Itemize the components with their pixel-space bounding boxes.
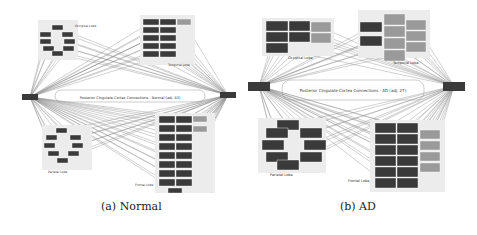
- label-frontal: Frontal Lobe: [135, 183, 154, 187]
- region-node: [406, 42, 426, 52]
- region-node: [43, 46, 54, 51]
- region-node: [160, 43, 176, 49]
- region-node: [266, 128, 288, 138]
- region-node: [64, 39, 75, 44]
- label-occipital: Occipital Lobe: [75, 24, 96, 28]
- hub-right: [443, 82, 465, 91]
- region-node: [384, 50, 405, 61]
- region-node: [176, 170, 192, 177]
- region-node: [300, 152, 322, 162]
- region-node: [159, 170, 175, 177]
- region-node: [262, 140, 284, 150]
- region-node: [397, 178, 418, 188]
- region-node: [143, 19, 159, 25]
- region-node: [193, 116, 207, 122]
- region-node: [176, 143, 192, 150]
- region-node: [300, 128, 322, 138]
- region-node: [176, 134, 192, 141]
- region-node: [375, 156, 396, 166]
- region-node: [420, 152, 440, 161]
- region-node: [311, 33, 331, 43]
- panel-normal: Posterior Cingulate Cortex Connections -…: [0, 0, 240, 200]
- label-temporal: Temporal Lobe: [392, 61, 419, 65]
- region-node: [420, 163, 440, 172]
- hub-right: [220, 92, 236, 98]
- region-node: [289, 32, 310, 42]
- region-node: [177, 19, 191, 25]
- region-node: [68, 151, 79, 156]
- region-node: [176, 125, 192, 132]
- region-node: [159, 143, 175, 150]
- panel-ad: Posterior Cingulate Cortex Connections -…: [240, 0, 477, 200]
- region-node: [397, 134, 418, 144]
- region-node: [143, 35, 159, 41]
- label-parietal: Parietal Lobe: [48, 170, 68, 174]
- region-node: [143, 43, 159, 49]
- region-node: [420, 141, 440, 150]
- region-node: [375, 178, 396, 188]
- caption-normal: (a) Normal: [101, 200, 162, 213]
- region-node: [406, 31, 426, 41]
- region-node: [44, 143, 55, 148]
- region-node: [57, 158, 68, 163]
- region-node: [63, 46, 74, 51]
- region-node: [176, 161, 192, 168]
- region-node: [56, 128, 67, 133]
- hub-left: [22, 94, 38, 100]
- region-node: [159, 179, 175, 186]
- region-node: [46, 135, 57, 140]
- region-node: [360, 36, 382, 46]
- region-node: [360, 22, 382, 32]
- region-node: [159, 161, 175, 168]
- region-node: [384, 26, 405, 37]
- region-node: [397, 123, 418, 133]
- region-node: [375, 167, 396, 177]
- region-node: [304, 140, 326, 150]
- region-node: [72, 143, 83, 148]
- region-node: [176, 179, 192, 186]
- region-node: [176, 152, 192, 159]
- label-temporal: Temporal Lobe: [167, 63, 190, 67]
- region-node: [143, 27, 159, 33]
- region-node: [289, 21, 310, 31]
- region-node: [143, 51, 159, 57]
- region-node: [52, 51, 63, 56]
- region-node: [168, 188, 182, 193]
- region-node: [397, 156, 418, 166]
- region-node: [375, 134, 396, 144]
- region-node: [52, 25, 63, 30]
- region-node: [160, 19, 176, 25]
- label-occipital: Occipital Lobe: [288, 56, 313, 60]
- label-frontal: Frontal Lobe: [348, 179, 370, 183]
- region-node: [160, 35, 176, 41]
- region-node: [406, 20, 426, 30]
- connectivity-graph-ad: Posterior Cingulate Cortex Connections -…: [240, 0, 477, 200]
- center-label: Posterior Cingulate Cortex Connections -…: [300, 88, 407, 93]
- region-node: [375, 145, 396, 155]
- region-node: [397, 145, 418, 155]
- region-node: [375, 123, 396, 133]
- label-parietal: Parietal Lobe: [270, 173, 293, 177]
- connectivity-graph-normal: Posterior Cingulate Cortex Connections -…: [0, 0, 240, 200]
- region-node: [159, 116, 175, 123]
- region-node: [40, 32, 51, 37]
- region-node: [70, 135, 81, 140]
- region-node: [160, 27, 176, 33]
- region-node: [40, 39, 51, 44]
- region-node: [160, 51, 176, 57]
- region-node: [311, 22, 331, 32]
- caption-ad: (b) AD: [340, 200, 376, 213]
- region-node: [62, 32, 73, 37]
- hub-left: [248, 82, 270, 91]
- region-node: [159, 134, 175, 141]
- region-node: [384, 38, 405, 49]
- region-node: [397, 167, 418, 177]
- region-node: [159, 152, 175, 159]
- region-node: [277, 160, 299, 170]
- region-node: [159, 125, 175, 132]
- region-node: [266, 43, 288, 53]
- region-node: [266, 32, 288, 42]
- region-node: [48, 151, 59, 156]
- region-node: [176, 116, 192, 123]
- region-node: [193, 126, 207, 132]
